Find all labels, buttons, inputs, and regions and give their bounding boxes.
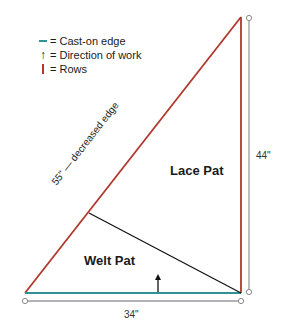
welt-pattern-label: Welt Pat — [84, 253, 135, 268]
legend-item-cast-on: = Cast-on edge — [38, 34, 141, 48]
width-dimension-label: 34" — [124, 309, 139, 320]
legend-item-direction: ↑ = Direction of work — [38, 48, 141, 62]
red-bar-icon — [38, 64, 48, 74]
up-arrow-icon: ↑ — [38, 48, 48, 62]
width-dimension-line — [22, 298, 243, 303]
height-dimension-label: 44" — [256, 150, 271, 161]
lace-pattern-label: Lace Pat — [170, 163, 223, 178]
legend: = Cast-on edge ↑ = Direction of work = R… — [38, 34, 141, 76]
legend-item-rows: = Rows — [38, 62, 141, 76]
height-dimension-line — [246, 15, 251, 294]
teal-dash-icon — [38, 40, 48, 42]
direction-arrow-icon — [155, 274, 161, 292]
